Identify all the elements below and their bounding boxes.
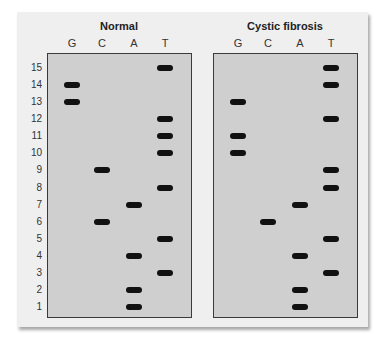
band (292, 287, 308, 293)
row-label-8: 8 (20, 182, 42, 193)
lane-label-a: A (290, 37, 310, 49)
band (126, 304, 142, 310)
panel-title: Cystic fibrosis (213, 20, 357, 32)
row-label-10: 10 (20, 147, 42, 158)
band (126, 202, 142, 208)
lane-label-g: G (228, 37, 248, 49)
lane-label-c: C (258, 37, 278, 49)
band (260, 219, 276, 225)
band (126, 287, 142, 293)
band (292, 253, 308, 259)
row-label-12: 12 (20, 113, 42, 124)
row-label-11: 11 (20, 130, 42, 141)
row-label-4: 4 (20, 250, 42, 261)
row-label-15: 15 (20, 62, 42, 73)
row-label-13: 13 (20, 96, 42, 107)
band (323, 167, 339, 173)
band (157, 150, 173, 156)
band (230, 150, 246, 156)
band (230, 99, 246, 105)
lane-label-g: G (62, 37, 82, 49)
row-label-6: 6 (20, 216, 42, 227)
band (126, 253, 142, 259)
band (157, 116, 173, 122)
band (157, 65, 173, 71)
band (230, 133, 246, 139)
band (323, 65, 339, 71)
row-label-3: 3 (20, 267, 42, 278)
band (64, 82, 80, 88)
row-label-9: 9 (20, 164, 42, 175)
band (323, 270, 339, 276)
row-label-14: 14 (20, 79, 42, 90)
row-label-2: 2 (20, 284, 42, 295)
lane-label-t: T (321, 37, 341, 49)
lane-label-c: C (92, 37, 112, 49)
band (323, 236, 339, 242)
row-label-1: 1 (20, 301, 42, 312)
band (64, 99, 80, 105)
row-label-7: 7 (20, 199, 42, 210)
band (94, 219, 110, 225)
band (157, 270, 173, 276)
band (292, 202, 308, 208)
band (157, 236, 173, 242)
band (323, 116, 339, 122)
lane-label-a: A (124, 37, 144, 49)
row-label-5: 5 (20, 233, 42, 244)
panel-title: Normal (47, 20, 191, 32)
band (94, 167, 110, 173)
lane-label-t: T (155, 37, 175, 49)
band (157, 133, 173, 139)
band (323, 82, 339, 88)
band (292, 304, 308, 310)
band (323, 185, 339, 191)
band (157, 185, 173, 191)
